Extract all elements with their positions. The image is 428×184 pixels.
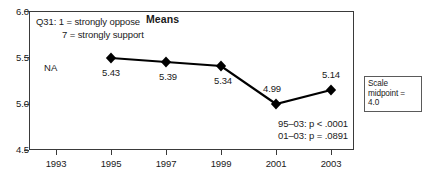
x-axis-tick-mark	[166, 150, 167, 155]
question-legend-line2: 7 = strongly support	[36, 29, 144, 42]
x-axis-tick-mark	[276, 150, 277, 155]
significance-line-95-03: 95–03: p < .0001	[232, 118, 348, 130]
x-axis-tick-mark	[331, 150, 332, 155]
scale-midpoint-line1: Scale	[368, 79, 418, 89]
x-axis-tick-label: 1995	[88, 158, 134, 169]
scale-midpoint-line2: midpoint = 4.0	[368, 89, 418, 108]
x-axis-tick-label: 2001	[253, 158, 299, 169]
point-value-label-2003: 5.14	[309, 70, 353, 80]
chart-title: Means	[146, 13, 179, 25]
significance-line-01-03: 01–03: p = .0891	[232, 130, 348, 142]
line-chart: 6.0 5.5 5.0 4.5 Q31: 1 = strongly oppose…	[0, 0, 428, 184]
x-axis-tick-label: 2003	[308, 158, 354, 169]
x-axis-tick-mark	[111, 150, 112, 155]
point-value-label-2001: 4.99	[250, 84, 294, 94]
x-axis-tick-mark	[221, 150, 222, 155]
x-axis-tick-label: 1993	[33, 158, 79, 169]
scale-midpoint-box: Scale midpoint = 4.0	[364, 76, 422, 112]
x-axis-tick-label: 1999	[198, 158, 244, 169]
y-axis-tick-mark	[24, 150, 29, 151]
point-value-label-1999: 5.34	[201, 76, 245, 86]
significance-annotation: 95–03: p < .0001 01–03: p = .0891	[232, 118, 348, 141]
na-data-label: NA	[44, 62, 58, 73]
question-legend: Q31: 1 = strongly oppose 7 = strongly su…	[36, 16, 144, 41]
x-axis-tick-label: 1997	[143, 158, 189, 169]
x-axis-tick-mark	[56, 150, 57, 155]
point-value-label-1995: 5.43	[89, 68, 133, 78]
point-value-label-1997: 5.39	[146, 72, 190, 82]
y-axis: 6.0 5.5 5.0 4.5	[0, 0, 29, 184]
question-legend-line1: Q31: 1 = strongly oppose	[36, 16, 140, 27]
